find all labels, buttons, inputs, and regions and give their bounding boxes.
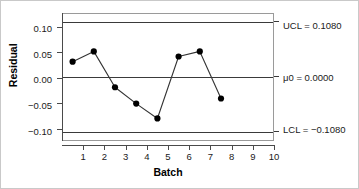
y-tick-label-1: 0.05 (34, 50, 53, 60)
x-tick-mark-5 (168, 145, 169, 150)
x-tick-label-10: 10 (264, 152, 284, 162)
x-tick-mark-7 (210, 145, 211, 150)
lcl-right-tick (274, 131, 279, 132)
y-tick-label-2: 0.00 (34, 75, 53, 85)
x-tick-mark-8 (232, 145, 233, 150)
y-axis-line (62, 13, 63, 141)
lcl-label: LCL = −0.1080 (283, 125, 346, 135)
x-tick-label-5: 5 (158, 152, 178, 162)
y-tick-label-0: 0.10 (34, 24, 53, 34)
x-tick-label-3: 3 (116, 152, 136, 162)
x-tick-label-8: 8 (222, 152, 242, 162)
x-tick-mark-3 (126, 145, 127, 150)
x-tick-label-7: 7 (200, 152, 220, 162)
x-tick-label-1: 1 (73, 152, 93, 162)
x-tick-label-6: 6 (179, 152, 199, 162)
plot-area (62, 13, 274, 141)
x-tick-label-9: 9 (243, 152, 263, 162)
x-tick-mark-4 (147, 145, 148, 150)
x-tick-mark-6 (189, 145, 190, 150)
x-tick-mark-9 (253, 145, 254, 150)
center-right-tick (274, 76, 279, 77)
ucl-label: UCL = 0.1080 (283, 21, 342, 31)
x-tick-mark-10 (274, 145, 275, 150)
lcl-reference-line (63, 132, 273, 133)
x-tick-mark-1 (83, 145, 84, 150)
center-label: μ0 = 0.0000 (283, 73, 334, 83)
x-tick-label-2: 2 (94, 152, 114, 162)
ucl-reference-line (63, 22, 273, 23)
x-tick-label-4: 4 (137, 152, 157, 162)
center-reference-line (63, 77, 273, 78)
x-axis-title: Batch (62, 167, 274, 178)
ucl-right-tick (274, 21, 279, 22)
x-tick-mark-2 (104, 145, 105, 150)
y-tick-label-3: −0.05 (28, 101, 52, 111)
control-chart-figure: Residual 0.10 0.05 0.00 −0.05 −0.10 UCL … (0, 0, 359, 189)
y-axis-title: Residual (8, 30, 19, 100)
y-tick-label-4: −0.10 (28, 127, 52, 137)
